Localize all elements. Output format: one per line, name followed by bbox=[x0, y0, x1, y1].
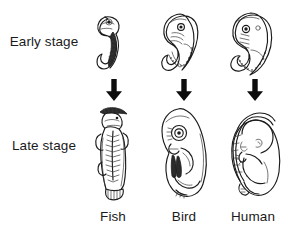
human-late-fetus-illustration bbox=[220, 104, 286, 202]
column-label-bird: Bird bbox=[150, 209, 218, 224]
bird-early-embryo-illustration bbox=[156, 8, 212, 78]
human-early-embryo-illustration bbox=[224, 8, 284, 78]
arrow-down-icon bbox=[243, 78, 267, 102]
row-label-late-stage: Late stage bbox=[0, 138, 88, 153]
fish-early-embryo-illustration bbox=[88, 8, 140, 78]
column-label-fish: Fish bbox=[79, 209, 147, 224]
bird-late-embryo-illustration bbox=[154, 104, 214, 202]
row-label-early-stage: Early stage bbox=[0, 34, 88, 49]
column-label-human: Human bbox=[219, 209, 287, 224]
embryology-figure: Early stage Late stage bbox=[0, 0, 293, 236]
arrow-down-icon bbox=[172, 78, 196, 102]
arrow-down-icon bbox=[102, 78, 126, 102]
fish-late-larva-illustration bbox=[86, 104, 142, 202]
